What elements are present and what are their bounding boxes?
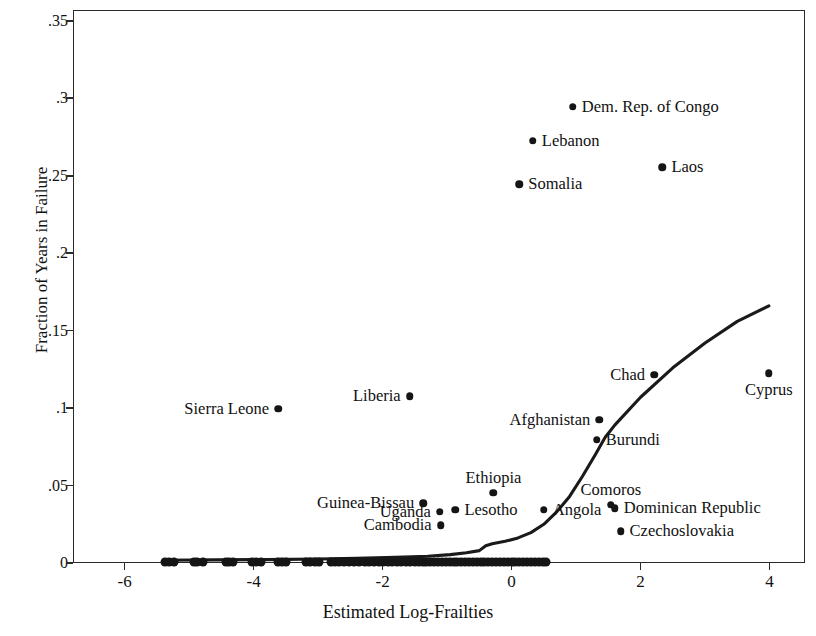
data-point	[650, 371, 658, 379]
data-point	[315, 558, 324, 567]
data-point	[281, 558, 290, 567]
data-point	[542, 558, 551, 567]
point-label: Cyprus	[745, 380, 793, 400]
data-point	[516, 181, 524, 189]
point-label: Lesotho	[464, 500, 517, 520]
x-tick-label: -2	[363, 572, 403, 592]
data-point	[274, 405, 282, 413]
y-tick-mark	[66, 485, 73, 487]
data-point	[611, 504, 619, 512]
data-point	[617, 527, 625, 535]
y-tick-label: .3	[24, 89, 68, 107]
data-point	[228, 558, 237, 567]
data-point	[596, 416, 604, 424]
data-point	[406, 393, 414, 401]
data-point	[490, 489, 498, 497]
plot-area: Dem. Rep. of CongoLebanonLaosSomaliaChad…	[73, 10, 805, 563]
data-point	[593, 436, 601, 444]
point-label: Lebanon	[542, 131, 600, 151]
point-label: Angola	[553, 500, 602, 520]
x-axis-tick-labels: -6-4-2024	[73, 572, 805, 598]
x-tick-label: -4	[234, 572, 274, 592]
point-label: Czechoslovakia	[630, 521, 734, 541]
y-tick-mark	[66, 252, 73, 254]
data-point	[436, 508, 444, 516]
point-label: Ethiopia	[466, 468, 522, 488]
point-label: Somalia	[528, 174, 582, 194]
y-tick-mark	[66, 97, 73, 99]
y-tick-label: .25	[24, 167, 68, 185]
y-tick-label: .15	[24, 322, 68, 340]
y-tick-mark	[66, 20, 73, 22]
y-axis-tick-labels: 0.05.1.15.2.25.3.35	[16, 10, 68, 563]
y-tick-label: .1	[24, 399, 68, 417]
data-point	[529, 137, 537, 145]
data-point	[452, 506, 460, 514]
point-label: Comoros	[581, 480, 642, 500]
y-tick-mark	[66, 175, 73, 177]
point-label: Dominican Republic	[624, 498, 761, 518]
data-point	[540, 506, 548, 514]
data-point	[765, 369, 773, 377]
trend-line	[73, 10, 805, 563]
y-tick-mark	[66, 407, 73, 409]
x-tick-label: -6	[105, 572, 145, 592]
x-tick-label: 2	[621, 572, 661, 592]
x-tick-mark	[769, 563, 771, 570]
data-point	[199, 558, 208, 567]
x-tick-label: 4	[750, 572, 790, 592]
x-tick-label: 0	[492, 572, 532, 592]
y-tick-mark	[66, 330, 73, 332]
y-tick-mark	[66, 562, 73, 564]
point-label: Chad	[610, 365, 645, 385]
x-tick-mark	[640, 563, 642, 570]
point-label: Sierra Leone	[184, 399, 269, 419]
point-label: Burundi	[606, 430, 660, 450]
point-label: Cambodia	[364, 515, 432, 535]
data-point	[659, 163, 667, 171]
data-point	[257, 558, 266, 567]
point-label: Liberia	[353, 386, 401, 406]
y-tick-label: .35	[24, 12, 68, 30]
data-point	[169, 558, 178, 567]
x-tick-mark	[124, 563, 126, 570]
y-tick-label: 0	[24, 554, 68, 572]
data-point	[437, 521, 445, 529]
point-label: Afghanistan	[510, 410, 591, 430]
x-axis-title: Estimated Log-Frailties	[0, 602, 816, 623]
point-label: Laos	[671, 157, 703, 177]
data-point	[569, 103, 577, 111]
y-tick-label: .05	[24, 477, 68, 495]
y-tick-label: .2	[24, 244, 68, 262]
point-label: Dem. Rep. of Congo	[582, 97, 719, 117]
scatter-plot-figure: Fraction of Years in Failure Estimated L…	[0, 0, 816, 636]
